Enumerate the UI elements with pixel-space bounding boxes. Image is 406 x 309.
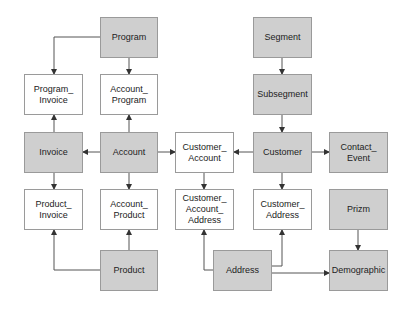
edge-address-to-customer-account-address <box>204 230 213 270</box>
node-account-product: Account_ Product <box>100 189 158 230</box>
node-account: Account <box>100 132 158 173</box>
edge-program-to-program-invoice <box>54 37 100 74</box>
node-product-invoice: Product_ Invoice <box>24 189 83 230</box>
node-customer-account-address: Customer_ Account_ Address <box>175 189 234 230</box>
node-customer-address: Customer_ Address <box>253 189 312 230</box>
node-label: Segment <box>264 32 300 43</box>
node-contact-event: Contact_ Event <box>329 132 388 173</box>
node-label: Customer_ Account <box>182 142 226 164</box>
node-label: Product <box>113 265 144 276</box>
entity-relationship-diagram: ProgramSegmentProgram_ InvoiceAccount_ P… <box>0 0 406 309</box>
node-label: Account_ Product <box>110 199 148 221</box>
node-label: Prizm <box>347 204 370 215</box>
node-program-invoice: Program_ Invoice <box>24 74 83 115</box>
node-label: Invoice <box>39 147 68 158</box>
node-label: Address <box>226 265 259 276</box>
node-label: Customer_ Account_ Address <box>182 193 226 226</box>
node-prizm: Prizm <box>329 189 388 230</box>
node-label: Account <box>113 147 146 158</box>
node-invoice: Invoice <box>24 132 83 173</box>
node-label: Product_ Invoice <box>35 199 71 221</box>
edge-product-to-product-invoice <box>54 230 100 270</box>
node-product: Product <box>100 250 158 291</box>
node-label: Program <box>112 32 147 43</box>
node-account-program: Account_ Program <box>100 74 158 115</box>
node-label: Program_ Invoice <box>34 84 74 106</box>
node-subsegment: Subsegment <box>253 74 312 115</box>
edge-address-to-customer-address <box>272 230 282 266</box>
node-label: Customer <box>263 147 302 158</box>
node-customer: Customer <box>253 132 312 173</box>
node-label: Contact_ Event <box>340 142 376 164</box>
node-customer-account: Customer_ Account <box>175 132 234 173</box>
node-address: Address <box>213 250 272 291</box>
node-label: Customer_ Address <box>260 199 304 221</box>
node-label: Demographic <box>332 265 386 276</box>
node-demographic: Demographic <box>329 250 388 291</box>
node-label: Account_ Program <box>110 84 148 106</box>
node-segment: Segment <box>253 17 312 58</box>
node-label: Subsegment <box>257 89 308 100</box>
node-program: Program <box>100 17 158 58</box>
